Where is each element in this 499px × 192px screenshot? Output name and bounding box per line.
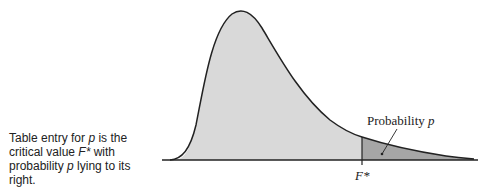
f-distribution-diagram: Probability p F*: [0, 0, 499, 192]
tail-probability-area: [362, 137, 474, 160]
probability-label: Probability p: [367, 113, 435, 128]
critical-value-label: F*: [354, 168, 370, 183]
